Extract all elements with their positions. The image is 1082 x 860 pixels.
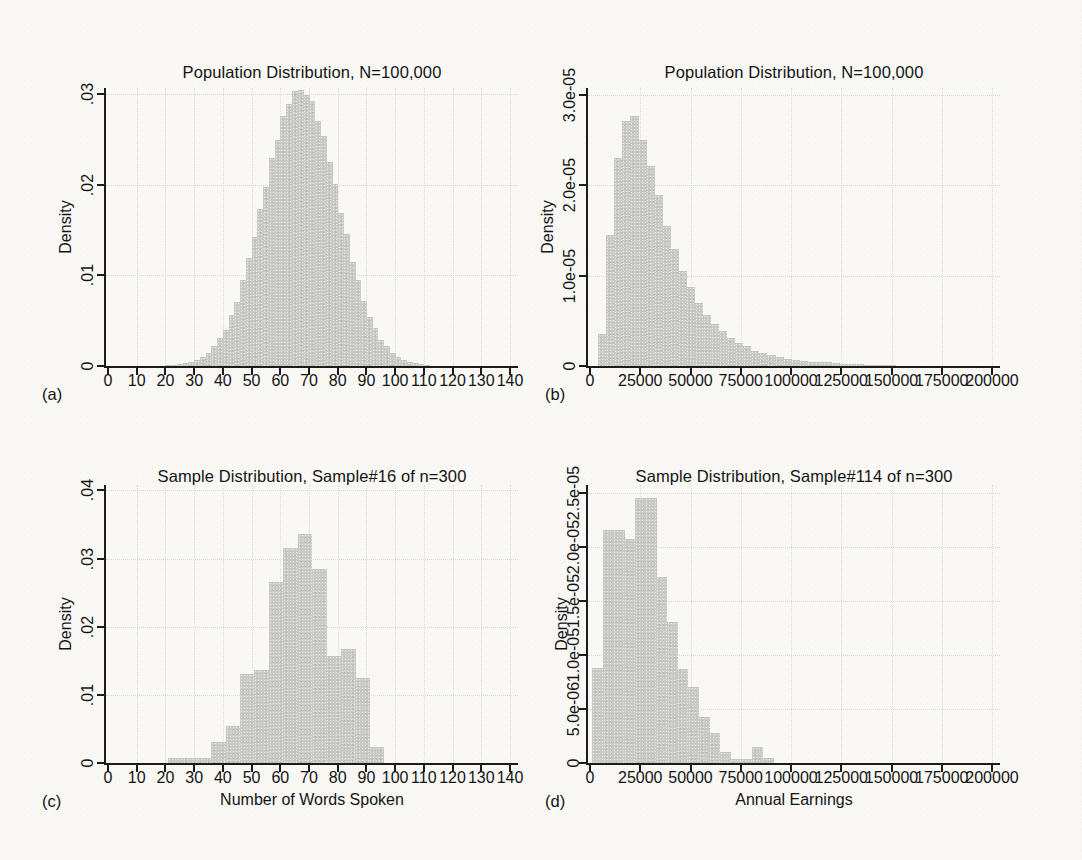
- chart-panel-c: Sample Distribution, Sample#16 of n=300 …: [30, 445, 560, 845]
- y-tick-mark: [97, 184, 104, 186]
- histogram-bar: [592, 668, 603, 763]
- gridline-vertical: [741, 485, 742, 763]
- chart-panel-b: Population Distribution, N=100,000 Densi…: [512, 55, 1042, 455]
- x-tick-label: 10: [128, 769, 146, 787]
- gridline-vertical: [137, 88, 138, 366]
- x-tick-label: 50000: [668, 372, 713, 390]
- gridline-vertical: [165, 485, 166, 763]
- y-tick-mark: [579, 94, 586, 96]
- gridline-vertical: [481, 88, 482, 366]
- x-tick-label: 175000: [915, 769, 968, 787]
- x-tick-label: 125000: [815, 372, 868, 390]
- chart-panel-a: Population Distribution, N=100,000 Densi…: [30, 55, 560, 455]
- y-tick-label: .02: [79, 174, 97, 196]
- histogram-bar: [656, 577, 667, 763]
- gridline-vertical: [481, 485, 482, 763]
- x-tick-label: 30: [185, 372, 203, 390]
- plot-area: 0.01.02.03.04010203040506070809010011012…: [106, 485, 518, 763]
- y-tick-label: .03: [79, 547, 97, 569]
- histogram-bar: [688, 687, 699, 763]
- y-tick-mark: [97, 762, 104, 764]
- gridline-vertical: [395, 485, 396, 763]
- gridline-vertical: [453, 88, 454, 366]
- histogram-bar: [283, 548, 298, 763]
- x-tick-label: 125000: [815, 769, 868, 787]
- x-tick-label: 175000: [915, 372, 968, 390]
- gridline-vertical: [791, 88, 792, 366]
- y-tick-mark: [97, 489, 104, 491]
- gridline-vertical: [992, 88, 993, 366]
- x-tick-label: 80: [329, 372, 347, 390]
- x-tick-label: 100000: [764, 372, 817, 390]
- gridline-vertical: [137, 485, 138, 763]
- x-tick-label: 110: [411, 372, 437, 390]
- y-tick-label: 0: [79, 362, 97, 371]
- gridline-vertical: [992, 485, 993, 763]
- y-tick-label: .01: [79, 264, 97, 286]
- y-tick-label: 1.5e-05: [565, 574, 583, 628]
- y-tick-label: .02: [79, 616, 97, 638]
- x-tick-label: 80: [329, 769, 347, 787]
- gridline-vertical: [424, 485, 425, 763]
- histogram-bar: [298, 534, 313, 763]
- chart-title: Sample Distribution, Sample#114 of n=300: [588, 467, 1000, 486]
- y-tick-label: .01: [79, 684, 97, 706]
- gridline-vertical: [791, 485, 792, 763]
- x-tick-label: 120: [439, 769, 466, 787]
- x-tick-label: 50: [243, 372, 261, 390]
- gridline-horizontal: [106, 490, 518, 491]
- x-tick-label: 50: [243, 769, 261, 787]
- panel-letter: (b): [545, 385, 565, 404]
- gridline-horizontal: [588, 95, 1000, 96]
- x-tick-label: 75000: [719, 769, 764, 787]
- x-tick-label: 25000: [618, 769, 663, 787]
- panel-letter: (c): [42, 792, 61, 811]
- y-tick-label: 2.5e-05: [565, 465, 583, 519]
- gridline-vertical: [942, 88, 943, 366]
- y-tick-label: 0: [561, 362, 579, 371]
- histogram-bar: [240, 674, 255, 763]
- histogram-bar: [369, 747, 384, 763]
- panel-letter: (d): [545, 792, 565, 811]
- y-tick-label: 1.0e-05: [565, 628, 583, 682]
- gridline-vertical: [510, 485, 511, 763]
- histogram-bar: [341, 649, 356, 763]
- y-tick-label: .03: [79, 83, 97, 105]
- y-tick-label: 5.0e-06: [565, 682, 583, 736]
- gridline-vertical: [942, 485, 943, 763]
- histogram-bar: [603, 530, 614, 763]
- x-axis-line: [104, 763, 518, 765]
- x-tick-label: 100000: [764, 769, 817, 787]
- y-tick-label: 3.0e-05: [561, 68, 579, 122]
- histogram-figure: Population Distribution, N=100,000 Densi…: [0, 0, 1082, 860]
- y-tick-mark: [97, 274, 104, 276]
- gridline-vertical: [841, 485, 842, 763]
- gridline-vertical: [424, 88, 425, 366]
- gridline-vertical: [510, 88, 511, 366]
- x-tick-label: 40: [214, 372, 232, 390]
- y-axis-label: Density: [57, 597, 75, 650]
- x-tick-label: 25000: [618, 372, 663, 390]
- y-tick-label: 0: [79, 759, 97, 768]
- x-axis-label: Number of Words Spoken: [106, 791, 518, 809]
- x-tick-label: 70: [300, 769, 318, 787]
- x-tick-label: 90: [358, 769, 376, 787]
- gridline-vertical: [165, 88, 166, 366]
- y-axis-line: [104, 88, 106, 368]
- histogram-bar: [326, 656, 341, 763]
- histogram-bar: [752, 747, 763, 763]
- x-tick-label: 120: [439, 372, 466, 390]
- x-tick-label: 0: [586, 372, 595, 390]
- histogram-bar: [355, 678, 370, 763]
- histogram-bar: [635, 498, 646, 763]
- x-axis-line: [586, 763, 1000, 765]
- panel-letter: (a): [42, 385, 62, 404]
- histogram-bar: [677, 669, 688, 763]
- y-axis-line: [586, 88, 588, 368]
- chart-title: Population Distribution, N=100,000: [106, 63, 518, 82]
- gridline-vertical: [741, 88, 742, 366]
- x-tick-label: 90: [358, 372, 376, 390]
- x-tick-label: 130: [468, 372, 495, 390]
- y-axis-label: Density: [57, 200, 75, 253]
- y-axis-line: [586, 485, 588, 765]
